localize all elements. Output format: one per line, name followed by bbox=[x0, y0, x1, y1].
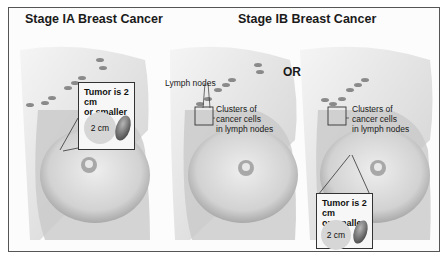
or-label: OR bbox=[283, 65, 301, 79]
lymph-nodes-label: Lymph nodes bbox=[165, 78, 216, 88]
breast-illustration-stage-ib-nodes bbox=[170, 47, 298, 240]
tumor-icon bbox=[112, 113, 133, 142]
tumor-size-callout: Tumor is 2 cm or smaller 2 cm bbox=[78, 82, 135, 150]
clusters-label: Clusters of cancer cells in lymph nodes bbox=[216, 104, 273, 134]
two-cm-circle: 2 cm bbox=[84, 112, 116, 144]
title-stage-ib: Stage IB Breast Cancer bbox=[238, 12, 376, 26]
clusters-label: Clusters of cancer cells in lymph nodes bbox=[352, 104, 409, 134]
callout-text: Tumor is 2 cm or smaller bbox=[84, 87, 134, 117]
title-stage-ia: Stage IA Breast Cancer bbox=[25, 12, 163, 26]
two-cm-circle: 2 cm bbox=[321, 220, 351, 250]
tumor-size-callout: Tumor is 2 cm or smaller 2 cm bbox=[316, 193, 373, 249]
